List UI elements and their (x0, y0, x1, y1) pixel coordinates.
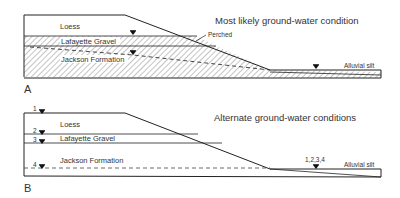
alluvial-label-a: Alluvial silt (344, 62, 375, 69)
loess-label-b: Loess (60, 120, 80, 129)
gravel-label-a: Lafayette Gravel (61, 37, 116, 46)
marker-2-label: 2 (33, 127, 37, 134)
jackson-label-b: Jackson Formation (60, 156, 123, 165)
loess-label-a: Loess (60, 22, 80, 31)
geologic-cross-sections: Loess Lafayette Gravel Jackson Formation… (0, 0, 400, 198)
alluvial-label-b: Alluvial silt (344, 161, 375, 168)
water-level-marker-icon (313, 165, 319, 169)
marker-4-label: 4 (33, 161, 37, 168)
panel-a-title: Most likely ground-water condition (215, 15, 359, 26)
panel-b: 1 2 3 4 1,2,3,4 Loess Lafayette Gravel J… (24, 105, 381, 194)
jackson-label-a: Jackson Formation (61, 55, 124, 64)
panel-b-letter: B (24, 182, 31, 194)
water-level-marker-icon (130, 31, 136, 35)
panel-a: Loess Lafayette Gravel Jackson Formation… (24, 15, 381, 95)
panel-a-letter: A (24, 83, 32, 95)
marker-3-label: 3 (33, 136, 37, 143)
alluvial-base-b (270, 169, 381, 177)
combined-marker-label: 1,2,3,4 (305, 156, 325, 163)
gravel-label-b: Lafayette Gravel (60, 134, 115, 143)
marker-1-label: 1 (33, 105, 37, 112)
water-level-marker-icon (313, 65, 319, 69)
perched-label: Perched (208, 31, 233, 38)
panel-b-title: Alternate ground-water conditions (214, 112, 356, 123)
